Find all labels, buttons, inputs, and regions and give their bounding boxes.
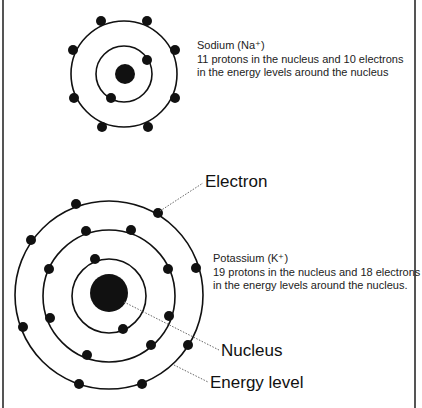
potassium-electron [126,225,136,235]
sodium-electron [69,93,79,103]
energy-level-leader-line [174,365,208,382]
sodium-electron [106,93,116,103]
nucleus-leader-line [124,302,219,350]
potassium-electron [82,350,92,360]
sodium-electron [68,45,78,55]
potassium-description-line: in the energy levels around the nucleus. [213,279,420,293]
nucleus-label: Nucleus [221,342,282,359]
potassium-electron [183,340,193,350]
sodium-electron [142,55,152,65]
potassium-electron [163,264,173,274]
potassium-electron [137,379,147,389]
potassium-atom [15,199,203,389]
sodium-nucleus [115,64,135,84]
potassium-name: Potassium (K⁺) [213,252,420,266]
electron-label: Electron [205,173,267,190]
sodium-description-line: in the energy levels around the nucleus [197,66,404,80]
potassium-electron [118,324,128,334]
sodium-description: Sodium (Na⁺) 11 protons in the nucleus a… [197,39,404,80]
potassium-electron [18,322,28,332]
potassium-electron [71,199,81,209]
sodium-atom [68,16,180,132]
sodium-name: Sodium (Na⁺) [197,39,404,53]
sodium-electron [170,93,180,103]
potassium-nucleus [90,274,128,312]
sodium-electron [170,45,180,55]
electron-leader-line [160,183,203,211]
potassium-electron [191,263,201,273]
potassium-electron [45,313,55,323]
sodium-electron [96,16,106,26]
potassium-electron [90,254,100,264]
energy-level-label: Energy level [210,374,304,391]
potassium-electron [146,340,156,350]
potassium-electron [153,208,163,218]
sodium-electron [142,16,152,26]
potassium-description: Potassium (K⁺) 19 protons in the nucleus… [213,252,420,293]
sodium-electron [97,122,107,132]
sodium-description-line: 11 protons in the nucleus and 10 electro… [197,53,404,67]
sodium-electron [143,122,153,132]
potassium-electron [164,311,174,321]
potassium-electron [81,226,91,236]
potassium-description-line: 19 protons in the nucleus and 18 electro… [213,266,420,280]
potassium-electron [44,264,54,274]
potassium-electron [26,235,36,245]
potassium-electron [74,379,84,389]
